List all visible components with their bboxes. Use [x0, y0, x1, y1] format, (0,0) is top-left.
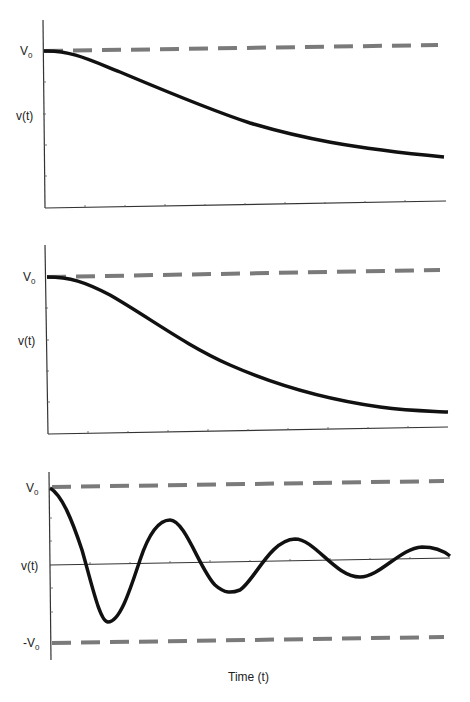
y-axis: [45, 245, 48, 434]
chart-overdamped: V0 v(t): [16, 20, 446, 208]
chart-underdamped: V0 v(t) -V0 Time (t): [21, 472, 450, 684]
damping-figure: V0 v(t) V0 v(t): [0, 0, 470, 702]
y-label-v0: V0: [26, 481, 39, 497]
y-label-neg-v0: -V0: [23, 636, 40, 652]
y-axis: [49, 472, 51, 660]
y-label-vt: v(t): [18, 334, 35, 348]
x-axis-label: Time (t): [228, 670, 269, 684]
response-curve: [47, 277, 448, 412]
y-label-vt: v(t): [16, 109, 33, 123]
y-label-v0: V0: [23, 270, 36, 286]
response-curve: [50, 488, 450, 622]
v0-reference-dashed: [52, 481, 444, 487]
v0-reference-dashed: [44, 45, 438, 51]
neg-v0-reference-dashed: [52, 637, 444, 643]
y-label-vt: v(t): [21, 559, 38, 573]
y-label-v0: V0: [20, 44, 33, 60]
v0-reference-dashed: [47, 270, 440, 277]
response-curve: [44, 51, 444, 157]
chart-critically-damped: V0 v(t): [18, 245, 448, 434]
x-axis: [45, 201, 446, 208]
